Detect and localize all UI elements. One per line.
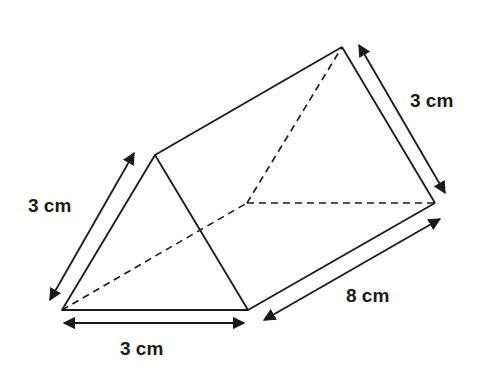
- left-dimension-arrow: [50, 153, 134, 300]
- bottom-right-edge: [248, 203, 435, 310]
- hidden-edge-base-diagonal: [62, 203, 247, 310]
- top-ridge-edge: [155, 47, 342, 155]
- front-triangle-face: [62, 155, 248, 310]
- length-edge-label: 8 cm: [346, 285, 389, 307]
- triangular-prism-diagram: [0, 0, 490, 371]
- left-edge-label: 3 cm: [28, 195, 71, 217]
- visible-edges: [62, 47, 435, 310]
- right-top-edge-label: 3 cm: [410, 90, 453, 112]
- hidden-edges: [62, 47, 435, 310]
- right-top-dimension-arrow: [359, 45, 445, 193]
- dimension-arrows: [50, 45, 445, 323]
- bottom-edge-label: 3 cm: [120, 338, 163, 360]
- hidden-edge-back-left: [247, 47, 342, 203]
- back-right-edge: [342, 47, 435, 203]
